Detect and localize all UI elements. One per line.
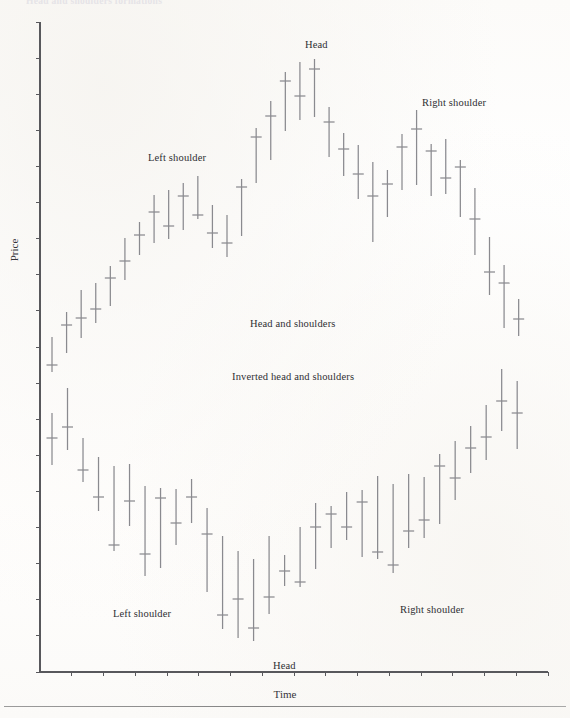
ohlc-bar (62, 388, 73, 450)
ohlc-bar (61, 312, 72, 353)
ohlc-bar (178, 183, 189, 230)
chart-annotation-head: Head (273, 660, 296, 671)
bars-inverted-head-and-shoulders (47, 369, 523, 641)
figure-container: Head and shoulders formations Price Time… (0, 0, 570, 718)
ohlc-bar (265, 101, 276, 160)
ohlc-bar (202, 508, 213, 592)
ohlc-bar (455, 160, 466, 217)
ohlc-bar (119, 238, 130, 280)
ohlc-bar (513, 299, 524, 336)
chart-annotation-right-shoulder: Right shoulder (422, 97, 486, 108)
ohlc-bar (186, 479, 197, 523)
ohlc-bar (372, 476, 383, 559)
ohlc-bar (109, 466, 120, 551)
ohlc-bar (279, 555, 290, 586)
chart-annotation-inverted-head-and-shoulders: Inverted head and shoulders (232, 371, 354, 382)
ohlc-bar (105, 266, 116, 306)
ohlc-bar (310, 503, 321, 569)
ohlc-bar (294, 62, 305, 120)
ohlc-bar (140, 486, 151, 576)
ohlc-bar (434, 454, 445, 524)
y-axis-label: Price (8, 220, 20, 280)
ohlc-bar (440, 139, 451, 194)
ohlc-bar (280, 72, 291, 131)
ohlc-bar (367, 162, 378, 242)
footer-divider-rule (4, 706, 566, 707)
ohlc-bar (426, 144, 437, 196)
ohlc-bar (469, 188, 480, 255)
ohlc-bar (90, 283, 101, 323)
ohlc-bar (149, 195, 160, 243)
ohlc-bar (155, 488, 166, 568)
ohlc-bar (341, 492, 352, 540)
ohlc-bar (496, 369, 507, 431)
ohlc-bar (326, 506, 337, 548)
ohlc-bar (357, 490, 368, 557)
ohlc-bar (217, 536, 228, 629)
ohlc-bar (419, 477, 430, 538)
ohlc-bar (411, 110, 422, 185)
ohlc-bar (512, 381, 523, 449)
ohlc-bar (450, 441, 461, 500)
ohlc-bar (47, 337, 58, 372)
ohlc-bar (353, 145, 364, 199)
ohlc-bar (397, 134, 408, 190)
ohlc-bar (324, 107, 335, 157)
chart-annotation-left-shoulder: Left shoulder (148, 152, 206, 163)
ohlc-bar (403, 474, 414, 548)
chart-annotation-right-shoulder: Right shoulder (400, 604, 464, 615)
ohlc-bar (388, 484, 399, 573)
ohlc-bar (163, 190, 174, 239)
ohlc-bar (481, 405, 492, 460)
ohlc-bar (207, 205, 218, 248)
ohlc-bar (382, 170, 393, 217)
ohlc-bar (171, 489, 182, 545)
ohlc-bar (124, 464, 135, 526)
ohlc-bar (338, 133, 349, 176)
ohlc-bar (192, 176, 203, 219)
ohlc-bar (465, 426, 476, 473)
ohlc-bar (264, 536, 275, 614)
chart-axes (36, 22, 548, 676)
ohlc-bar (251, 128, 262, 183)
ohlc-bar (233, 551, 244, 638)
ohlc-bar (499, 265, 510, 328)
chart-annotation-head-and-shoulders: Head and shoulders (250, 318, 336, 329)
ohlc-bar (295, 527, 306, 587)
x-axis-label: Time (0, 688, 570, 700)
ohlc-bar (76, 290, 87, 338)
ohlc-bar (236, 179, 247, 236)
chart-annotation-head: Head (305, 39, 328, 50)
chart-annotation-left-shoulder: Left shoulder (113, 608, 171, 619)
ohlc-bar (484, 237, 495, 295)
ohlc-bar (248, 559, 259, 641)
ohlc-bar (222, 215, 233, 257)
ohlc-bar (309, 59, 320, 117)
ohlc-bar (78, 438, 89, 482)
ohlc-bar (134, 222, 145, 255)
ohlc-bar (47, 413, 58, 465)
ohlc-bar (93, 457, 104, 511)
